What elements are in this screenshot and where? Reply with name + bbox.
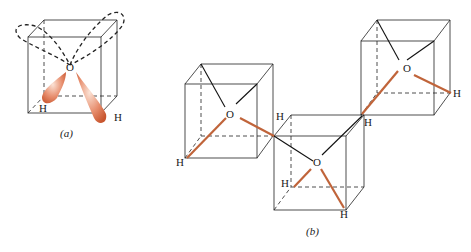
oxygen-label-b3: O: [403, 62, 411, 74]
panel-b: [185, 20, 450, 210]
hydrogen-label-b2b: H: [340, 208, 348, 220]
atom-labels-b: O H H O H H O H H: [176, 62, 461, 220]
hydrogen-label-a2: H: [114, 111, 122, 123]
caption-a: (a): [60, 127, 73, 140]
caption-b: (b): [306, 225, 319, 238]
oxygen-label-b1: O: [226, 108, 234, 120]
hydrogen-label-b2a: H: [281, 177, 289, 189]
hydrogen-label-a1: H: [39, 102, 47, 114]
water-structure-diagram: O H H (a): [0, 0, 471, 252]
hydrogen-label-b1b: H: [276, 110, 284, 122]
hydrogen-label-b3a: H: [364, 116, 372, 128]
oxygen-label-b2: O: [313, 156, 321, 168]
hydrogen-label-b1a: H: [176, 156, 184, 168]
bond-orbital-lobes: [42, 72, 106, 123]
covalent-bonds: [187, 71, 451, 208]
hydrogen-label-b3b: H: [453, 87, 461, 99]
oxygen-label-a: O: [66, 61, 74, 73]
